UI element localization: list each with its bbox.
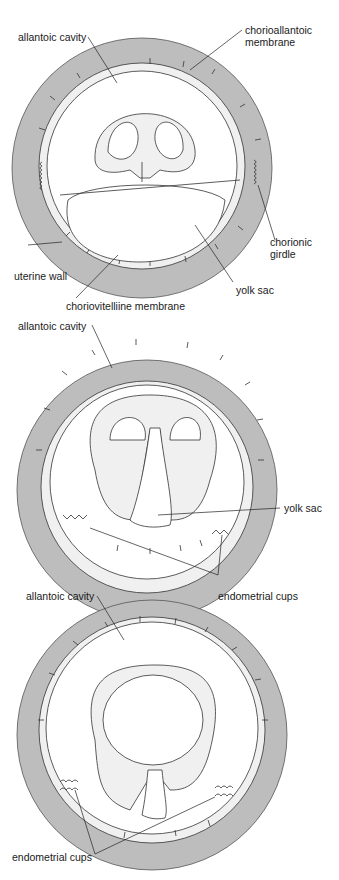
label-chorioallantoic-membrane-line1: chorioallantoic <box>245 24 312 36</box>
label-allantoic-cavity-3: allantoic cavity <box>26 590 94 602</box>
label-allantoic-cavity-1: allantoic cavity <box>18 31 86 43</box>
equine-placentation-diagram <box>0 0 339 880</box>
label-endometrial-cups-2: endometrial cups <box>12 851 92 863</box>
label-choriovitelline-membrane: choriovitelliine membrane <box>66 300 185 312</box>
panel-early <box>12 30 275 298</box>
label-yolk-sac-1: yolk sac <box>236 284 274 296</box>
label-yolk-sac-2: yolk sac <box>284 502 322 514</box>
label-chorioallantoic-membrane-line2: membrane <box>245 36 295 48</box>
label-chorionic-girdle-line1: chorionic <box>270 236 312 248</box>
label-allantoic-cavity-2: allantoic cavity <box>18 320 86 332</box>
label-endometrial-cups-1: endometrial cups <box>218 590 298 602</box>
label-uterine-wall: uterine wall <box>14 270 67 282</box>
panel-middle <box>17 325 280 620</box>
panel-late <box>17 596 287 870</box>
label-chorionic-girdle-line2: girdle <box>270 248 296 260</box>
